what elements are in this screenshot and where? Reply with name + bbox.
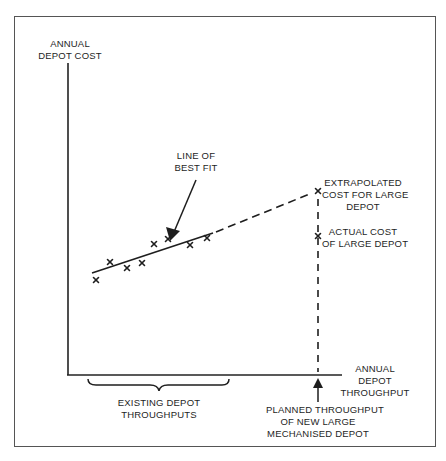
- extrapolated-point-x-icon: [316, 189, 321, 194]
- existing-throughputs-label: EXISTING DEPOT THROUGHPUTS: [114, 397, 204, 421]
- x-axis-label: ANNUAL DEPOT THROUGHPUT: [340, 363, 410, 399]
- extrapolated-label: EXTRAPOLATED COST FOR LARGE DEPOT: [322, 177, 404, 213]
- extrapolation-dashed-line: [216, 193, 312, 232]
- best-fit-line: [92, 233, 213, 273]
- actual-point-x-icon: [316, 234, 321, 239]
- x-marker-icon: [108, 260, 113, 265]
- x-marker-icon: [94, 278, 99, 283]
- planned-throughput-arrow: [313, 378, 323, 402]
- actual-cost-label: ACTUAL COST OF LARGE DEPOT: [322, 226, 404, 250]
- x-marker-icon: [152, 242, 157, 247]
- planned-throughput-label: PLANNED THROUGHPUT OF NEW LARGE MECHANIS…: [266, 404, 370, 440]
- x-marker-icon: [205, 236, 210, 241]
- x-marker-icon: [125, 266, 130, 271]
- best-fit-label: LINE OF BEST FIT: [168, 150, 224, 174]
- x-marker-icon: [188, 243, 193, 248]
- best-fit-arrow: [166, 180, 196, 241]
- existing-throughputs-brace: [88, 379, 229, 391]
- x-marker-icon: [140, 261, 145, 266]
- y-axis-label: ANNUAL DEPOT COST: [38, 38, 102, 62]
